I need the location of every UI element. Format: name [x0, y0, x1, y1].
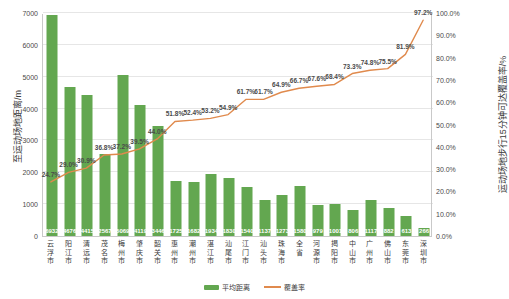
bar[interactable]: [135, 105, 146, 236]
legend-bar-swatch-icon: [204, 285, 219, 290]
bar-slot: 1117: [362, 13, 380, 236]
coverage-value-label: 64.9%: [272, 81, 290, 88]
y-axis-right-title: 运动场地步行15分钟可达覆盖率/%: [496, 55, 509, 195]
bar-slot: 1725: [167, 13, 185, 236]
coverage-value-label: 75.5%: [378, 58, 396, 65]
bar-slot: 4676: [61, 13, 79, 236]
bar[interactable]: [117, 75, 128, 236]
coverage-value-label: 44.0%: [148, 128, 166, 135]
coverage-value-label: 39.5%: [130, 138, 148, 145]
legend-item-line[interactable]: 覆盖率: [264, 282, 305, 292]
bar-value-label: 1830: [222, 228, 235, 234]
y-axis-right-tick: 80.0%: [436, 55, 472, 62]
bar-value-label: 979: [313, 228, 323, 234]
coverage-value-label: 97.2%: [414, 9, 432, 16]
x-axis-label[interactable]: 云浮市: [46, 240, 55, 266]
y-axis-right-tick: 20.0%: [436, 188, 472, 195]
bar-value-label: 4415: [81, 228, 94, 234]
x-axis-label[interactable]: 汕尾市: [224, 240, 233, 266]
y-axis-right-tick: 60.0%: [436, 99, 472, 106]
bar-value-label: 266: [419, 228, 429, 234]
bar-slot: 882: [380, 13, 398, 236]
x-axis-label[interactable]: 广州市: [365, 240, 374, 266]
bar-slot: 806: [344, 13, 362, 236]
coverage-value-label: 53.2%: [201, 107, 219, 114]
coverage-value-label: 61.7%: [237, 88, 255, 95]
x-axis-label[interactable]: 潮州市: [188, 240, 197, 266]
coverage-value-label: 66.7%: [290, 77, 308, 84]
coverage-value-label: 81.9%: [396, 43, 414, 50]
x-axis-label[interactable]: 惠州市: [170, 240, 179, 266]
y-axis-left-tick: 6000: [6, 42, 38, 49]
bar-value-label: 1273: [276, 228, 289, 234]
bar-slot: 2567: [96, 13, 114, 236]
chart-container: 至运动场地距离/m 运动场地步行15分钟可达覆盖率/% 010002000300…: [0, 0, 509, 299]
bar-slot: 4415: [78, 13, 96, 236]
bar-slot: 1580: [291, 13, 309, 236]
bar-value-label: 3446: [152, 228, 165, 234]
coverage-value-label: 24.7%: [42, 171, 60, 178]
y-axis-right-tick: 70.0%: [436, 77, 472, 84]
coverage-value-label: 61.7%: [254, 88, 272, 95]
bar-value-label: 6932: [45, 228, 58, 234]
legend-bar-label: 平均距离: [222, 282, 250, 292]
bar-slot: 1273: [273, 13, 291, 236]
bar-value-label: 613: [401, 228, 411, 234]
x-axis-label[interactable]: 河源市: [312, 240, 321, 266]
bar-value-label: 1725: [169, 228, 182, 234]
bar[interactable]: [100, 154, 111, 236]
x-axis-label[interactable]: 中山市: [348, 240, 357, 266]
bar-value-label: 1117: [365, 228, 378, 234]
coverage-value-label: 68.4%: [325, 73, 343, 80]
coverage-value-label: 30.9%: [77, 157, 95, 164]
y-axis-right-tick: 30.0%: [436, 166, 472, 173]
bar-slot: 1934: [203, 13, 221, 236]
y-axis-right-tick: 40.0%: [436, 144, 472, 151]
plot-area: 6932467644152567506941193446172516821934…: [42, 14, 432, 237]
y-axis-left-tick: 3000: [6, 137, 38, 144]
y-axis-left-tick: 2000: [6, 169, 38, 176]
bar-value-label: 4676: [63, 228, 76, 234]
legend-item-bar[interactable]: 平均距离: [204, 282, 250, 292]
y-axis-left-tick: 7000: [6, 10, 38, 17]
coverage-value-label: 74.8%: [361, 59, 379, 66]
x-axis-label[interactable]: 佛山市: [383, 240, 392, 266]
x-axis-label[interactable]: 湛江市: [206, 240, 215, 266]
bar[interactable]: [46, 15, 57, 236]
x-axis-label[interactable]: 肇庆市: [135, 240, 144, 266]
y-axis-left-tick: 5000: [6, 74, 38, 81]
x-axis-label[interactable]: 深圳市: [419, 240, 428, 266]
bar-slot: 6932: [43, 13, 61, 236]
x-axis-label[interactable]: 东莞市: [401, 240, 410, 266]
y-axis-right-line: [431, 14, 432, 237]
bar-slot: 1001: [327, 13, 345, 236]
bar-value-label: 1137: [258, 228, 271, 234]
x-axis-label[interactable]: 韶关市: [153, 240, 162, 266]
x-axis-label[interactable]: 汕头市: [259, 240, 268, 266]
bar[interactable]: [153, 126, 164, 236]
coverage-value-label: 51.8%: [166, 110, 184, 117]
y-axis-left-tick: 1000: [6, 201, 38, 208]
x-axis-label[interactable]: 揭阳市: [330, 240, 339, 266]
x-axis-label[interactable]: 江门市: [241, 240, 250, 266]
bar-value-label: 5069: [116, 228, 129, 234]
y-axis-left-tick: 0: [6, 233, 38, 240]
coverage-value-label: 54.9%: [219, 104, 237, 111]
bar-value-label: 1682: [187, 228, 200, 234]
y-axis-right-tick: 10.0%: [436, 211, 472, 218]
bar-slot: 979: [309, 13, 327, 236]
x-axis-label[interactable]: 清远市: [82, 240, 91, 266]
x-axis-label[interactable]: 全省: [295, 240, 304, 257]
x-axis-label[interactable]: 阳江市: [64, 240, 73, 266]
bar[interactable]: [82, 95, 93, 236]
y-axis-right-tick: 50.0%: [436, 122, 472, 129]
bar-series: 6932467644152567506941193446172516821934…: [43, 13, 433, 236]
y-axis-right-tick: 90.0%: [436, 32, 472, 39]
bar-value-label: 882: [384, 228, 394, 234]
y-axis-right-tick: 0.0%: [436, 233, 472, 240]
x-axis-label[interactable]: 茂名市: [100, 240, 109, 266]
bar-value-label: 4119: [134, 228, 147, 234]
x-axis-label[interactable]: 珠海市: [277, 240, 286, 266]
x-axis-label[interactable]: 梅州市: [117, 240, 126, 266]
bar[interactable]: [206, 174, 217, 236]
